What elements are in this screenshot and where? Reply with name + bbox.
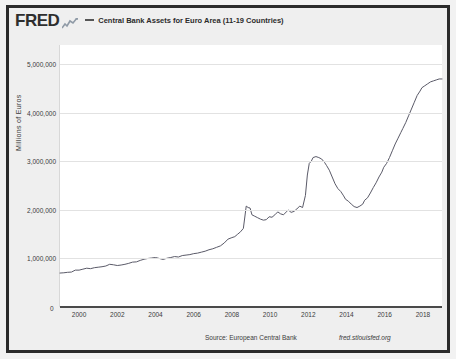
plot-area-wrapper: Millions of Euros 0 1,000,0002,000,0003,… — [9, 33, 447, 350]
fred-logo[interactable]: FRED — [15, 12, 59, 29]
y-axis-title: Millions of Euros — [15, 140, 22, 151]
x-axis-tick-label: 2008 — [225, 311, 239, 318]
chart-footer: Source: European Central Bank fred.stlou… — [9, 334, 447, 346]
y-axis-tick-label: 5,000,000 — [27, 61, 56, 68]
gridline-y — [60, 210, 442, 211]
x-axis-tick-label: 2004 — [148, 311, 162, 318]
y-axis-tick-label: 4,000,000 — [27, 109, 56, 116]
series-line-central-bank-assets — [60, 45, 442, 307]
x-axis-baseline — [60, 306, 442, 308]
fred-line-chart-logo-icon — [62, 16, 78, 28]
y-axis-zero-label: 0 — [50, 305, 54, 312]
x-axis-tick-label: 2014 — [339, 311, 353, 318]
x-axis-tick-label: 2018 — [416, 311, 430, 318]
series-legend-label: Central Bank Assets for Euro Area (11-19… — [98, 16, 283, 25]
x-axis-tick-label: 2000 — [72, 311, 86, 318]
footer-url-label[interactable]: fred.stlouisfed.org — [339, 334, 391, 341]
chart-frame: FRED Central Bank Assets for Euro Area (… — [6, 5, 450, 353]
y-axis-tick-label: 1,000,000 — [27, 255, 56, 262]
y-axis-tick-label: 2,000,000 — [27, 206, 56, 213]
chart-header: FRED Central Bank Assets for Euro Area (… — [9, 8, 447, 33]
gridline-y — [60, 161, 442, 162]
fred-chart-widget: FRED Central Bank Assets for Euro Area (… — [0, 0, 456, 359]
x-axis-tick-label: 2012 — [301, 311, 315, 318]
gridline-y — [60, 113, 442, 114]
x-axis-tick-label: 2016 — [377, 311, 391, 318]
x-axis-tick-label: 2002 — [110, 311, 124, 318]
x-axis-tick-label: 2010 — [263, 311, 277, 318]
plot-canvas: 0 1,000,0002,000,0003,000,0004,000,0005,… — [59, 45, 442, 307]
series-color-swatch — [85, 19, 94, 21]
gridline-y — [60, 64, 442, 65]
gridline-y — [60, 258, 442, 259]
y-axis-tick-label: 3,000,000 — [27, 158, 56, 165]
footer-source-label: Source: European Central Bank — [205, 334, 297, 341]
x-axis-tick-label: 2006 — [186, 311, 200, 318]
